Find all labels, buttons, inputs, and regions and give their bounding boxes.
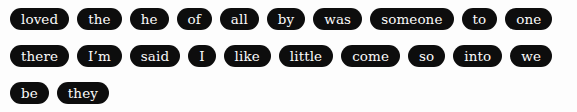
word-tag[interactable]: of (177, 8, 212, 30)
word-tag[interactable]: the (77, 8, 121, 30)
word-tag-cloud: lovedtheheofallbywassomeonetoonethereI’m… (0, 0, 577, 112)
word-tag[interactable]: little (279, 45, 333, 67)
word-tag[interactable]: someone (370, 8, 453, 30)
word-tag[interactable]: we (510, 45, 552, 67)
word-tag[interactable]: be (10, 82, 49, 104)
word-tag[interactable]: all (220, 8, 259, 30)
word-tag[interactable]: said (130, 45, 180, 67)
word-tag[interactable]: they (57, 82, 109, 104)
word-tag[interactable]: by (267, 8, 305, 30)
word-tag[interactable]: one (505, 8, 552, 30)
word-tag[interactable]: come (341, 45, 400, 67)
word-tag[interactable]: into (453, 45, 502, 67)
word-tag[interactable]: was (313, 8, 362, 30)
word-tag[interactable]: I (188, 45, 215, 67)
word-tag[interactable]: to (462, 8, 498, 30)
word-tag[interactable]: like (224, 45, 271, 67)
word-tag[interactable]: I’m (77, 45, 122, 67)
word-tag[interactable]: there (10, 45, 69, 67)
word-tag[interactable]: loved (10, 8, 69, 30)
word-tag[interactable]: he (130, 8, 169, 30)
word-tag[interactable]: so (408, 45, 445, 67)
